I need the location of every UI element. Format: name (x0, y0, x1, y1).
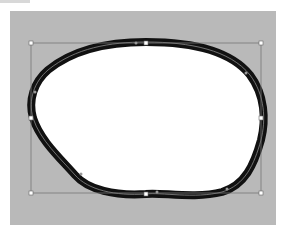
anchor-point[interactable] (156, 191, 159, 194)
anchor-point[interactable] (245, 72, 248, 75)
handle-middle-right[interactable] (259, 116, 263, 120)
caption (90, 228, 190, 235)
anchor-point[interactable] (226, 188, 229, 191)
anchor-point[interactable] (80, 173, 83, 176)
anchor-point[interactable] (34, 91, 37, 94)
handle-top-left[interactable] (29, 41, 33, 45)
handle-top-center[interactable] (144, 41, 148, 45)
handle-bottom-left[interactable] (29, 191, 33, 195)
handle-top-right[interactable] (259, 41, 263, 45)
handle-middle-left[interactable] (29, 116, 33, 120)
vector-artwork[interactable] (0, 0, 281, 235)
anchor-point[interactable] (135, 42, 138, 45)
handle-bottom-center[interactable] (144, 192, 148, 196)
blob-shape[interactable] (31, 42, 263, 195)
handle-bottom-right[interactable] (259, 191, 263, 195)
